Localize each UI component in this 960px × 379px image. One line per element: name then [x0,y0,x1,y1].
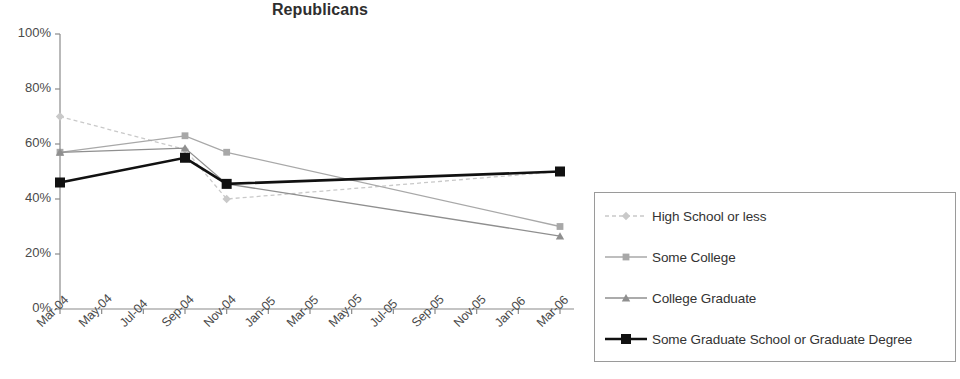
legend-marker-icon [603,331,649,347]
legend-marker-icon [603,290,649,306]
data-point-marker [180,153,190,163]
y-axis-tick-label: 80% [5,80,51,95]
y-axis-tick-label: 60% [5,135,51,150]
legend-item-3[interactable]: College Graduate [603,287,756,309]
legend-item-4[interactable]: Some Graduate School or Graduate Degree [603,328,912,350]
data-point-marker [557,223,564,230]
data-point-marker [622,212,630,220]
series-line [60,148,560,236]
legend-item-1[interactable]: High School or less [603,205,766,227]
legend-item-label: College Graduate [649,291,756,306]
legend-item-label: Some College [649,250,736,265]
data-point-marker [555,167,565,177]
series-3 [56,144,564,239]
legend-item-2[interactable]: Some College [603,246,736,268]
series-line [60,117,560,200]
data-point-marker [621,334,631,344]
data-point-marker [623,254,630,261]
y-axis-tick-label: 40% [5,190,51,205]
data-point-marker [223,149,230,156]
legend-marker-icon [603,208,649,224]
data-point-marker [182,132,189,139]
data-point-marker [56,112,64,120]
legend-item-label: High School or less [649,209,766,224]
series-1 [56,112,564,203]
data-point-marker [55,178,65,188]
y-axis-tick-label: 20% [5,245,51,260]
legend-marker-icon [603,249,649,265]
chart-legend: High School or lessSome CollegeCollege G… [594,192,956,362]
legend-item-label: Some Graduate School or Graduate Degree [649,332,912,347]
chart-figure: Republicans 0%20%40%60%80%100% Mar-04May… [0,0,960,379]
y-axis-tick-label: 100% [5,25,51,40]
data-point-marker [222,179,232,189]
